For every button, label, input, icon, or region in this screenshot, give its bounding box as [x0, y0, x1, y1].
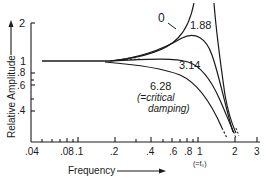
y-axis: [31, 23, 35, 142]
curve-6-28-dashed: [222, 128, 227, 138]
x-axis-label-group: Frequency: [68, 165, 166, 176]
x-axis-label: Frequency: [68, 165, 115, 176]
curve-label-3-14: 3.14: [179, 59, 200, 71]
x-tick-01: .1: [75, 146, 84, 157]
curve-label-0-leader: [168, 23, 176, 29]
x-tick-04: .4: [146, 146, 155, 157]
y-axis-label: Relative Amplitude: [6, 55, 17, 138]
y-tick-2: 2: [19, 17, 25, 29]
critical-damping-line2: damping): [148, 103, 190, 114]
x-axis: [31, 137, 260, 142]
curve-label-6-28: 6.28: [150, 80, 171, 92]
x-tick-008: .08: [60, 146, 74, 157]
x-tick-2: 2: [232, 146, 238, 157]
resonance-amplitude-chart: 2 1 .8 .6 .4 Relative Amplitude .04 .08 …: [0, 0, 266, 181]
y-axis-label-group: Relative Amplitude: [6, 20, 17, 138]
x-tick-08: .8: [184, 146, 193, 157]
x-tick-f0-note: (=f₀): [193, 160, 207, 168]
curve-1-88: [110, 35, 233, 132]
curve-label-1-88: 1.88: [190, 19, 211, 31]
x-tick-06: .6: [169, 146, 178, 157]
y-tick-1: 1: [20, 55, 26, 67]
x-axis-arrowhead-icon: [159, 169, 166, 174]
x-tick-02: .2: [110, 146, 119, 157]
y-axis-arrowhead-icon: [9, 20, 14, 27]
curve-label-0: 0: [158, 11, 165, 25]
x-tick-004: .04: [25, 146, 39, 157]
y-tick-04: .4: [17, 105, 26, 116]
critical-damping-line1: (=critical: [137, 92, 175, 103]
curve-infinite: [214, 3, 236, 133]
y-tick-06: .6: [17, 80, 26, 91]
x-tick-1: 1: [197, 146, 203, 157]
x-tick-3: 3: [254, 146, 260, 157]
y-tick-08: .8: [17, 67, 26, 78]
